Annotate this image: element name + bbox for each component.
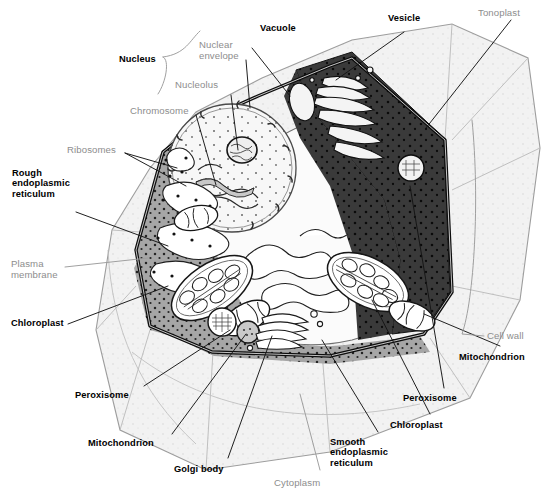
label-ribosomes: Ribosomes (67, 145, 116, 156)
label-chloroplast-right: Chloroplast (390, 420, 443, 430)
label-cell-wall: Cell wall (487, 331, 524, 342)
label-golgi-body: Golgi body (174, 464, 224, 474)
plant-cell-diagram: Nucleus Nuclear envelope Nucleolus Chrom… (0, 0, 549, 497)
label-mitochondrion-left: Mitochondrion (88, 438, 154, 448)
label-cytoplasm: Cytoplasm (274, 478, 320, 489)
label-nucleolus: Nucleolus (175, 80, 218, 91)
label-chromosome: Chromosome (130, 106, 189, 117)
label-plasma-membrane: Plasma membrane (11, 259, 58, 280)
label-peroxisome-left: Peroxisome (75, 390, 129, 400)
label-nuclear-envelope: Nuclear envelope (199, 40, 239, 61)
cell-illustration (0, 0, 549, 497)
label-vesicle: Vesicle (388, 13, 420, 23)
label-tonoplast: Tonoplast (478, 8, 520, 19)
nucleolus-shape (227, 137, 257, 163)
label-rough-endoplasmic-reticulum: Rough endoplasmic reticulum (12, 168, 70, 199)
label-peroxisome-right: Peroxisome (403, 393, 457, 403)
label-chloroplast-left: Chloroplast (11, 318, 64, 328)
label-smooth-endoplasmic-reticulum: Smooth endoplasmic reticulum (330, 437, 388, 468)
label-vacuole: Vacuole (260, 23, 296, 33)
label-nucleus: Nucleus (119, 54, 156, 64)
label-mitochondrion-right: Mitochondrion (459, 352, 525, 362)
